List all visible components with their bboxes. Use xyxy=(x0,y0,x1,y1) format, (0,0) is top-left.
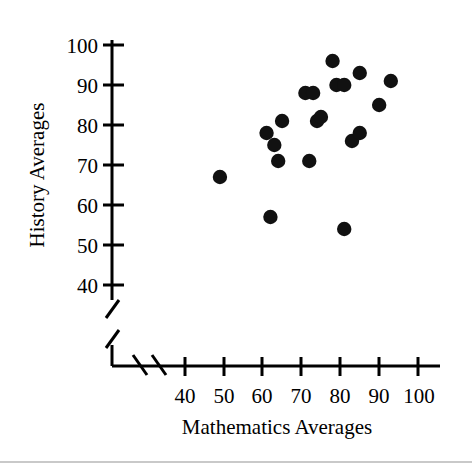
y-tick-label-100: 100 xyxy=(67,34,99,58)
x-axis-group: 40 50 60 70 80 90 100 Mathematics Averag… xyxy=(112,355,440,439)
data-point xyxy=(302,154,316,168)
data-point xyxy=(314,110,328,124)
x-tick-label-80: 80 xyxy=(330,384,351,408)
data-point xyxy=(337,222,351,236)
y-tick-label-60: 60 xyxy=(77,194,98,218)
y-axis-group: 100 90 80 70 60 50 40 History Averages xyxy=(25,34,124,366)
data-point xyxy=(259,126,273,140)
data-point xyxy=(275,114,289,128)
y-tick-label-50: 50 xyxy=(77,234,98,258)
x-tick-label-70: 70 xyxy=(291,384,312,408)
data-point xyxy=(306,86,320,100)
data-point xyxy=(271,154,285,168)
y-tick-label-90: 90 xyxy=(77,74,98,98)
x-tick-label-40: 40 xyxy=(175,384,196,408)
data-points-layer xyxy=(213,54,398,236)
y-tick-label-70: 70 xyxy=(77,154,98,178)
data-point xyxy=(353,126,367,140)
data-point xyxy=(337,78,351,92)
data-point xyxy=(325,54,339,68)
y-tick-label-40: 40 xyxy=(77,274,98,298)
data-point xyxy=(372,98,386,112)
x-tick-label-100: 100 xyxy=(403,384,435,408)
y-tick-label-80: 80 xyxy=(77,114,98,138)
y-axis-break-upper-slash xyxy=(106,300,119,318)
x-axis-title: Mathematics Averages xyxy=(182,415,372,439)
scatter-plot-figure: 100 90 80 70 60 50 40 History Averages xyxy=(0,0,472,463)
x-tick-label-50: 50 xyxy=(214,384,235,408)
plot-canvas: 100 90 80 70 60 50 40 History Averages xyxy=(0,0,472,463)
data-point xyxy=(353,66,367,80)
data-point xyxy=(384,74,398,88)
data-point xyxy=(263,210,277,224)
y-axis-title: History Averages xyxy=(25,103,49,248)
x-tick-label-60: 60 xyxy=(252,384,273,408)
data-point xyxy=(213,170,227,184)
data-point xyxy=(267,138,281,152)
x-tick-label-90: 90 xyxy=(369,384,390,408)
